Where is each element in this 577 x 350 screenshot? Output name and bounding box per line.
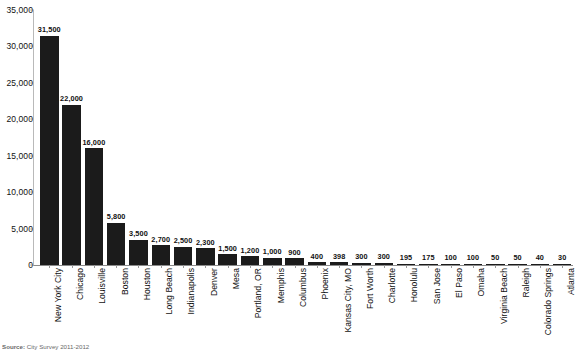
x-axis-tick-mark — [138, 265, 139, 268]
x-axis-category-label: New York City — [53, 268, 63, 322]
x-axis-tick-mark — [161, 265, 162, 268]
y-axis-tick-label: 25,000 — [0, 78, 33, 88]
bar-slot[interactable]: 22,000 — [62, 10, 81, 265]
bar-slot[interactable]: 50 — [508, 10, 527, 265]
x-axis-tick-mark — [540, 265, 541, 268]
bar-value-label: 400 — [311, 252, 323, 261]
bar[interactable] — [152, 245, 171, 265]
bar-slot[interactable]: 40 — [531, 10, 550, 265]
category-axis-labels: New York CityChicagoLouisvilleBostonHous… — [33, 268, 577, 344]
x-axis-tick-mark — [473, 265, 474, 268]
bar-slot[interactable]: 2,700 — [152, 10, 171, 265]
bar-value-label: 300 — [378, 252, 390, 261]
x-axis-tick-mark — [205, 265, 206, 268]
bar[interactable] — [85, 148, 104, 265]
y-axis-tick-label: 0 — [0, 260, 33, 270]
bar-slot[interactable]: 195 — [397, 10, 416, 265]
bar-value-label: 30 — [558, 253, 566, 262]
bar-slot[interactable]: 2,500 — [174, 10, 193, 265]
bar-slot[interactable]: 2,300 — [196, 10, 215, 265]
x-axis-tick-mark — [339, 265, 340, 268]
bar-slot[interactable]: 1,500 — [218, 10, 237, 265]
bar-slot[interactable]: 400 — [308, 10, 327, 265]
x-axis-tick-mark — [228, 265, 229, 268]
bar-value-label: 40 — [536, 253, 544, 262]
bar-value-label: 175 — [422, 253, 434, 262]
bar-slot[interactable]: 398 — [330, 10, 349, 265]
bar-slot[interactable]: 5,800 — [107, 10, 126, 265]
x-axis-category-label: Denver — [209, 268, 219, 296]
x-axis-category-label: Chicago — [75, 268, 85, 300]
x-axis-category-label: Phoenix — [320, 268, 330, 299]
bar[interactable] — [107, 223, 126, 265]
x-axis-category-label: San Jose — [432, 268, 442, 304]
bar-slot[interactable]: 100 — [441, 10, 460, 265]
bar[interactable] — [218, 254, 237, 265]
y-axis-tick-label: 20,000 — [0, 114, 33, 124]
x-axis-category-label: Memphis — [276, 268, 286, 303]
bar-slot[interactable]: 50 — [486, 10, 505, 265]
bar[interactable] — [241, 256, 260, 265]
bar-value-label: 100 — [467, 253, 479, 262]
bar-value-label: 398 — [333, 252, 345, 261]
bar-slot[interactable]: 30 — [553, 10, 572, 265]
bar-slot[interactable]: 3,500 — [129, 10, 148, 265]
bar-slot[interactable]: 300 — [375, 10, 394, 265]
bar[interactable] — [263, 258, 282, 265]
x-axis-category-label: El Paso — [454, 268, 464, 298]
x-axis-tick-mark — [451, 265, 452, 268]
bar-value-label: 3,500 — [129, 229, 148, 238]
bar-value-label: 195 — [400, 253, 412, 262]
x-axis-category-label: Charlotte — [387, 268, 397, 303]
bars-layer: 31,50022,00016,0005,8003,5002,7002,5002,… — [33, 10, 577, 265]
bar-slot[interactable]: 1,200 — [241, 10, 260, 265]
x-axis-category-label: Portland, OR — [253, 268, 263, 318]
x-axis-tick-mark — [183, 265, 184, 268]
x-axis-category-label: Boston — [120, 268, 130, 295]
bar-value-label: 2,700 — [151, 235, 170, 244]
bar-value-label: 100 — [444, 253, 456, 262]
x-axis-tick-mark — [384, 265, 385, 268]
x-axis-category-label: Indianapolis — [186, 268, 196, 314]
x-axis-category-label: Fort Worth — [365, 268, 375, 309]
x-axis-category-label: Columbus — [298, 268, 308, 307]
x-axis-category-label: Kansas City, MO — [343, 268, 353, 333]
x-axis-tick-mark — [250, 265, 251, 268]
x-axis-category-label: Colorado Springs — [543, 268, 553, 335]
x-axis-tick-mark — [406, 265, 407, 268]
bar-value-label: 16,000 — [82, 138, 105, 147]
x-axis-tick-mark — [72, 265, 73, 268]
bar-slot[interactable]: 175 — [419, 10, 438, 265]
bar-slot[interactable]: 900 — [285, 10, 304, 265]
x-axis-category-label: Louisville — [97, 268, 107, 304]
x-axis-category-label: Honolulu — [409, 268, 419, 302]
bar-slot[interactable]: 31,500 — [40, 10, 59, 265]
source-label: Source: — [2, 343, 25, 350]
bar-value-label: 31,500 — [38, 25, 61, 34]
x-axis-tick-mark — [272, 265, 273, 268]
y-axis-tick-label: 10,000 — [0, 187, 33, 197]
bar[interactable] — [129, 240, 148, 266]
bar[interactable] — [174, 247, 193, 265]
x-axis-tick-mark — [94, 265, 95, 268]
y-axis-tick-label: 35,000 — [0, 5, 33, 15]
bar[interactable] — [40, 36, 59, 266]
bar-value-label: 900 — [288, 248, 300, 257]
bar-slot[interactable]: 1,000 — [263, 10, 282, 265]
bar-slot[interactable]: 100 — [464, 10, 483, 265]
bar-value-label: 22,000 — [60, 94, 83, 103]
x-axis-tick-mark — [562, 265, 563, 268]
x-axis-tick-mark — [518, 265, 519, 268]
bar-value-label: 2,500 — [174, 236, 193, 245]
x-axis-category-label: Long Beach — [164, 268, 174, 314]
bar[interactable] — [62, 105, 81, 265]
x-axis-tick-mark — [116, 265, 117, 268]
x-axis-category-label: Omaha — [476, 268, 486, 296]
bar-value-label: 1,500 — [218, 244, 237, 253]
x-axis-tick-mark — [49, 265, 50, 268]
bar[interactable] — [196, 248, 215, 265]
x-axis-tick-mark — [428, 265, 429, 268]
bar-slot[interactable]: 16,000 — [85, 10, 104, 265]
bar-slot[interactable]: 300 — [352, 10, 371, 265]
